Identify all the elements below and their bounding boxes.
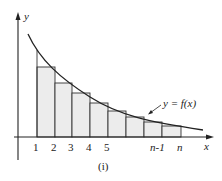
figure-caption: (i) (98, 160, 109, 173)
tick-label-n-minus-1: n-1 (150, 141, 165, 153)
x-axis-label: x (203, 140, 209, 152)
tick-label-1: 1 (33, 141, 39, 153)
pointer-arrow-icon (148, 110, 153, 115)
tick-label-2: 2 (51, 141, 57, 153)
tick-label-4: 4 (86, 141, 92, 153)
tick-label-5: 5 (104, 141, 110, 153)
y-axis-arrow-icon (16, 12, 21, 20)
y-axis-label: y (23, 10, 29, 22)
x-axis-arrow-icon (206, 135, 214, 140)
integral-test-figure: y x y = f(x) 1 2 3 4 5 n-1 n (i) (0, 0, 222, 181)
inscribed-rectangles (37, 67, 181, 137)
tick-label-n: n (177, 141, 183, 153)
tick-label-3: 3 (68, 141, 74, 153)
curve-label: y = f(x) (162, 97, 196, 110)
